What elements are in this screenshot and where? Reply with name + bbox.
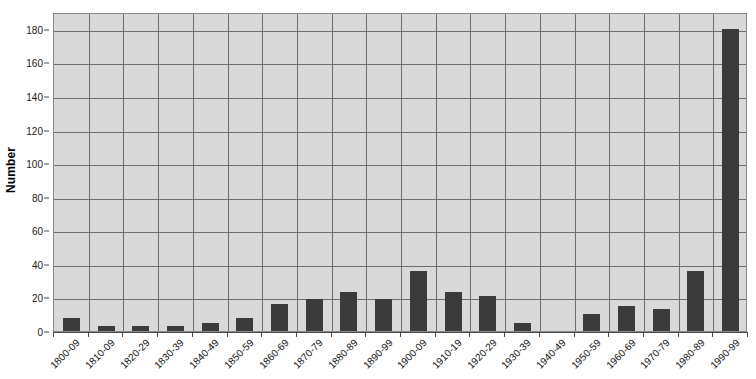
bar (98, 326, 115, 331)
y-axis-tick-labels: 020406080100120140160180 (22, 13, 49, 332)
y-axis-tick-mark (44, 130, 49, 131)
y-axis-title: Number (0, 0, 22, 340)
y-axis-tick-label: 20 (32, 293, 43, 304)
bars-layer (54, 14, 746, 331)
y-axis-tick-mark (44, 298, 49, 299)
y-axis-tick-mark (44, 63, 49, 64)
y-axis-tick-label: 80 (32, 192, 43, 203)
plot-area (53, 13, 747, 332)
bar (722, 29, 739, 331)
x-axis-tick-labels: 1800-091810-091820-291830-391840-491850-… (53, 337, 747, 379)
y-axis-tick-label: 60 (32, 226, 43, 237)
y-axis-tick-label: 100 (26, 159, 43, 170)
y-axis-tick-mark (44, 197, 49, 198)
y-axis-tick-label: 40 (32, 259, 43, 270)
bar (63, 318, 80, 331)
y-axis-tick-mark (44, 96, 49, 97)
y-axis-tick-label: 160 (26, 58, 43, 69)
y-axis-tick-label: 140 (26, 91, 43, 102)
y-axis-tick-mark (44, 231, 49, 232)
y-axis-tick-label: 120 (26, 125, 43, 136)
y-axis-tick-mark (44, 332, 49, 333)
y-axis-tick-mark (44, 264, 49, 265)
y-axis-tick-mark (44, 164, 49, 165)
y-axis-tick-label: 180 (26, 24, 43, 35)
y-axis-tick-label: 0 (37, 327, 43, 338)
y-axis-title-label: Number (4, 147, 18, 193)
y-axis-tick-mark (44, 29, 49, 30)
bar-chart-figure: Number 020406080100120140160180 1800-091… (0, 0, 756, 379)
